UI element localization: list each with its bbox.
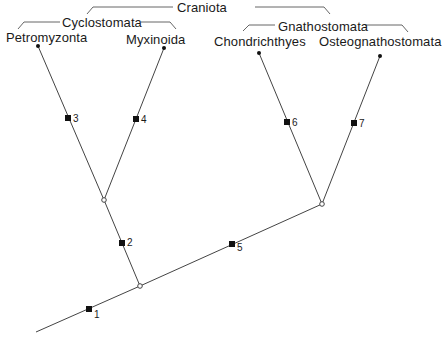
chondrichthyes-branch bbox=[259, 53, 322, 204]
character-marker-6 bbox=[284, 119, 290, 125]
character-label-3: 3 bbox=[73, 114, 79, 124]
character-label-6: 6 bbox=[292, 118, 298, 128]
cyclostomata-node bbox=[102, 198, 107, 203]
character-label-1: 1 bbox=[94, 310, 100, 320]
craniota-bracket bbox=[87, 7, 173, 14]
chondrichthyes-leaf-dot bbox=[257, 51, 261, 55]
character-label-4: 4 bbox=[141, 115, 147, 125]
character-label-7: 7 bbox=[359, 119, 365, 129]
craniota-bracket-right bbox=[255, 7, 330, 14]
taxon-label-osteognathostomata: Osteognathostomata bbox=[319, 35, 442, 48]
osteognathostomata-leaf-dot bbox=[378, 54, 382, 58]
character-label-2: 2 bbox=[127, 238, 133, 248]
petromyzonta-branch bbox=[38, 46, 104, 200]
cyclostomata-bracket-left bbox=[18, 22, 60, 29]
character-label-5: 5 bbox=[237, 243, 243, 253]
taxon-label-myxinoida: Myxinoida bbox=[126, 33, 185, 46]
character-marker-7 bbox=[351, 120, 357, 126]
character-marker-2 bbox=[119, 240, 125, 246]
craniota-label: Craniota bbox=[177, 1, 227, 14]
gnathostomata-bracket-left bbox=[243, 25, 275, 31]
character-marker-3 bbox=[65, 115, 71, 121]
character-marker-4 bbox=[133, 116, 139, 122]
character-marker-1 bbox=[86, 306, 92, 312]
osteognathostomata-branch bbox=[322, 56, 380, 204]
gnathostomata-node bbox=[320, 202, 325, 207]
cyclostomata-label: Cyclostomata bbox=[62, 16, 142, 29]
gnathostomata-bracket-right bbox=[365, 25, 408, 32]
character-marker-5 bbox=[229, 241, 235, 247]
gnathostomata-label: Gnathostomata bbox=[278, 20, 368, 33]
myxinoida-branch bbox=[104, 48, 164, 200]
craniota-node bbox=[138, 284, 143, 289]
taxon-label-petromyzonta: Petromyzonta bbox=[6, 31, 87, 44]
taxon-label-chondrichthyes: Chondrichthyes bbox=[214, 35, 306, 48]
cyclostomata-bracket-right bbox=[141, 22, 176, 29]
